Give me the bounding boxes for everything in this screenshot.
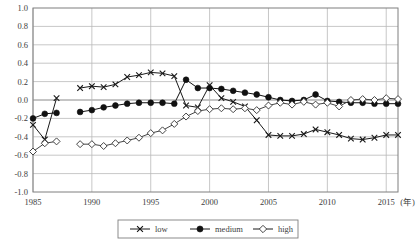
- data-point-marker: [54, 110, 60, 116]
- y-axis-tick-label: 0.0: [17, 95, 28, 105]
- data-point-marker: [113, 103, 119, 109]
- data-point-marker: [42, 111, 48, 117]
- data-point-marker: [218, 86, 224, 92]
- x-axis-tick-label: 1990: [83, 197, 100, 207]
- x-axis-tick-label: 1995: [142, 197, 159, 207]
- data-point-marker: [136, 100, 142, 106]
- y-axis-tick-label: 0.6: [17, 40, 28, 50]
- data-point-marker: [171, 101, 177, 107]
- data-point-marker: [148, 100, 154, 106]
- y-axis-tick-label: -0.8: [15, 169, 28, 179]
- x-axis-tick-label: 1985: [25, 197, 42, 207]
- data-point-marker: [207, 85, 213, 91]
- data-point-marker: [254, 92, 260, 98]
- data-point-marker: [266, 94, 272, 100]
- y-axis-tick-label: 0.4: [17, 58, 28, 68]
- data-point-marker: [101, 104, 107, 110]
- x-axis-tick-label: 2000: [201, 197, 218, 207]
- legend-label-low: low: [155, 224, 169, 234]
- data-point-marker: [230, 88, 236, 94]
- y-axis-tick-label: 0.2: [17, 77, 28, 87]
- data-point-marker: [160, 100, 166, 106]
- data-point-marker: [183, 77, 189, 83]
- y-axis-tick-label: -0.4: [15, 132, 29, 142]
- x-axis-tick-label: 2005: [260, 197, 277, 207]
- y-axis-tick-label: -1.0: [15, 187, 28, 197]
- legend-label-high: high: [278, 224, 294, 234]
- data-point-marker: [30, 116, 36, 122]
- legend-label-medium: medium: [215, 224, 243, 234]
- data-point-marker: [195, 85, 201, 91]
- y-axis-tick-label: -0.6: [15, 150, 28, 160]
- line-chart: 1.00.80.60.40.20.0-0.2-0.4-0.6-0.8-1.019…: [0, 0, 416, 243]
- chart-legend: lowmediumhigh: [118, 220, 298, 238]
- data-point-marker: [313, 92, 319, 98]
- x-axis-tick-label: 2010: [319, 197, 336, 207]
- chart-container: 1.00.80.60.40.20.0-0.2-0.4-0.6-0.8-1.019…: [0, 0, 416, 243]
- y-axis-tick-label: 1.0: [17, 3, 28, 13]
- data-point-marker: [89, 107, 95, 113]
- y-axis-tick-label: -0.2: [15, 113, 28, 123]
- data-point-marker: [77, 109, 83, 115]
- x-axis-unit-label: (年): [400, 197, 415, 207]
- data-point-marker: [197, 226, 203, 232]
- y-axis-tick-label: 0.8: [17, 21, 28, 31]
- x-axis-tick-label: 2015: [378, 197, 395, 207]
- data-point-marker: [242, 90, 248, 96]
- data-point-marker: [124, 101, 130, 107]
